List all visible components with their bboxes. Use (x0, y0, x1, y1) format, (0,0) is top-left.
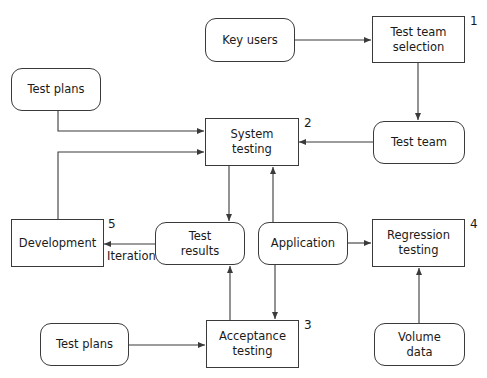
node-label: Acceptance testing (219, 329, 286, 359)
edge-label-iteration: Iteration (107, 249, 156, 263)
step-number-2: 2 (304, 116, 312, 130)
edge-development-system (58, 152, 204, 219)
node-label: Test team (391, 135, 447, 150)
node-label: Regression testing (387, 228, 450, 258)
node-test-plans-top: Test plans (11, 68, 101, 111)
edge-testplans-system (58, 111, 204, 131)
step-number-4: 4 (470, 217, 478, 231)
step-number-5: 5 (108, 217, 116, 231)
node-label: Test team selection (390, 25, 446, 55)
node-label: Test results (181, 229, 220, 259)
node-test-plans-bottom: Test plans (40, 323, 129, 366)
node-label: Application (271, 236, 335, 251)
step-number-1: 1 (470, 14, 478, 28)
node-label: System testing (231, 127, 274, 157)
node-development: Development (11, 219, 104, 267)
node-regression-testing: Regression testing (372, 219, 465, 267)
node-volume-data: Volume data (374, 323, 465, 366)
node-application: Application (258, 222, 348, 265)
node-label: Key users (222, 33, 278, 48)
node-system-testing: System testing (205, 118, 299, 166)
node-label: Test plans (56, 337, 113, 352)
node-test-team-selection: Test team selection (372, 16, 465, 63)
node-key-users: Key users (205, 18, 295, 62)
node-label: Test plans (27, 82, 84, 97)
step-number-3: 3 (304, 318, 312, 332)
node-acceptance-testing: Acceptance testing (206, 320, 299, 368)
node-label: Development (19, 236, 96, 251)
node-label: Volume data (398, 330, 441, 360)
node-test-results: Test results (155, 222, 245, 265)
node-test-team: Test team (373, 121, 465, 164)
